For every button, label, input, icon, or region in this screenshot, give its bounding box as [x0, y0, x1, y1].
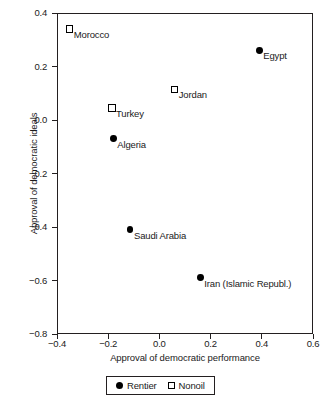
x-tick-label: −0.2 [86, 338, 130, 349]
data-point-label: Algeria [117, 139, 146, 150]
filled-circle-icon [197, 274, 204, 281]
legend-label-rentier: Rentier [127, 380, 157, 391]
data-point-label: Jordan [179, 89, 207, 100]
data-point-label: Saudi Arabia [134, 230, 186, 241]
open-square-icon [66, 25, 73, 32]
y-tick-mark [52, 227, 57, 228]
filled-circle-icon [116, 382, 123, 389]
y-tick-mark [52, 120, 57, 121]
y-tick-label: 0.4 [3, 7, 47, 18]
y-tick-label: −0.4 [3, 221, 47, 232]
open-square-icon [168, 382, 175, 389]
data-point-label: Morocco [74, 29, 109, 40]
filled-circle-icon [110, 135, 117, 142]
y-tick-label: 0.0 [3, 114, 47, 125]
x-tick-label: 0.2 [189, 338, 233, 349]
x-tick-label: 0.4 [240, 338, 284, 349]
legend-entry-rentier: Rentier [116, 380, 157, 391]
open-square-icon [171, 86, 178, 93]
y-tick-label: −0.6 [3, 275, 47, 286]
legend-entry-nonoil: Nonoil [168, 380, 205, 391]
x-axis-title: Approval of democratic performance [57, 352, 313, 363]
data-point-label: Iran (Islamic Republ.) [204, 278, 291, 289]
data-point-label: Turkey [116, 108, 144, 119]
filled-circle-icon [256, 47, 263, 54]
y-tick-label: −0.2 [3, 168, 47, 179]
x-tick-label: 0.6 [291, 338, 332, 349]
chart-legend: Rentier Nonoil [106, 376, 215, 395]
data-point-label: Egypt [263, 50, 287, 61]
legend-label-nonoil: Nonoil [179, 380, 205, 391]
y-tick-mark [52, 66, 57, 67]
x-tick-label: −0.4 [35, 338, 79, 349]
y-tick-mark [52, 173, 57, 174]
scatter-plot-figure: Approval of democratic ideals Approval o… [0, 0, 332, 405]
y-tick-mark [52, 13, 57, 14]
y-tick-mark [52, 280, 57, 281]
open-square-icon [108, 104, 115, 111]
y-tick-label: 0.2 [3, 61, 47, 72]
x-tick-label: 0.0 [137, 338, 181, 349]
